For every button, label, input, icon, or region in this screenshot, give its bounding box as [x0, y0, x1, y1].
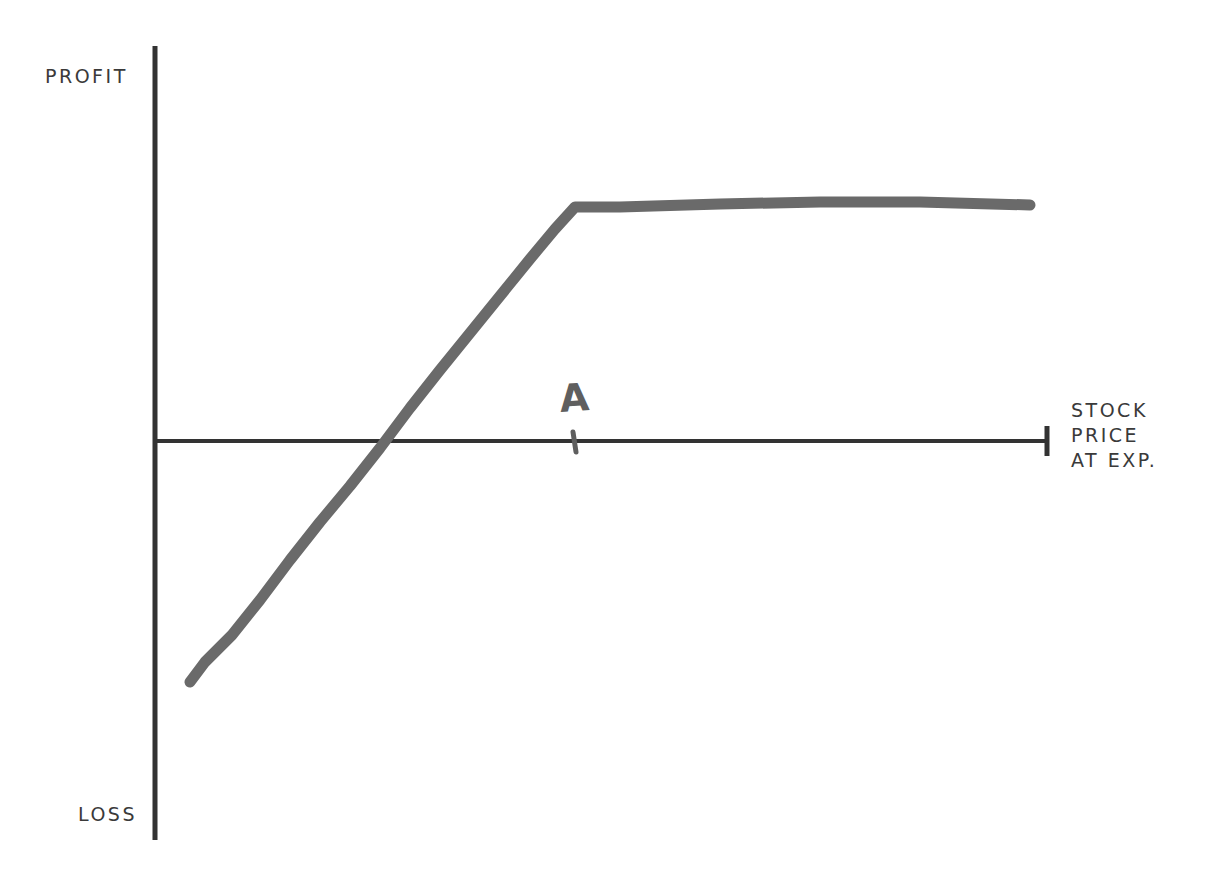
strike-marker-label: A [558, 375, 591, 421]
payoff-diagram: A [0, 0, 1220, 877]
strike-marker-tick [573, 432, 576, 452]
